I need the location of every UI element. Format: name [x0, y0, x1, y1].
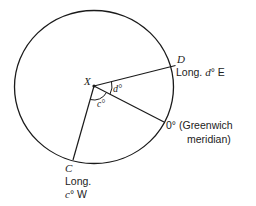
angle-label-c: c°	[97, 99, 105, 109]
label-c-long: Long.	[65, 175, 91, 187]
label-x: X	[83, 75, 92, 87]
label-c-longitude: c° W	[65, 188, 87, 200]
radius-xc	[73, 86, 94, 160]
radius-xd	[94, 66, 176, 87]
label-d: D	[176, 53, 185, 65]
label-greenwich: 0° (Greenwich	[166, 119, 233, 131]
angle-arc-d	[110, 82, 112, 95]
label-d-longitude: Long. d° E	[176, 66, 225, 78]
label-c: C	[65, 162, 73, 174]
label-greenwich-line2: meridian)	[187, 133, 231, 145]
longitude-diagram: X d° c° D Long. d° E 0° (Greenwich merid…	[0, 0, 256, 206]
angle-label-d: d°	[113, 83, 122, 94]
center-point	[92, 84, 95, 87]
